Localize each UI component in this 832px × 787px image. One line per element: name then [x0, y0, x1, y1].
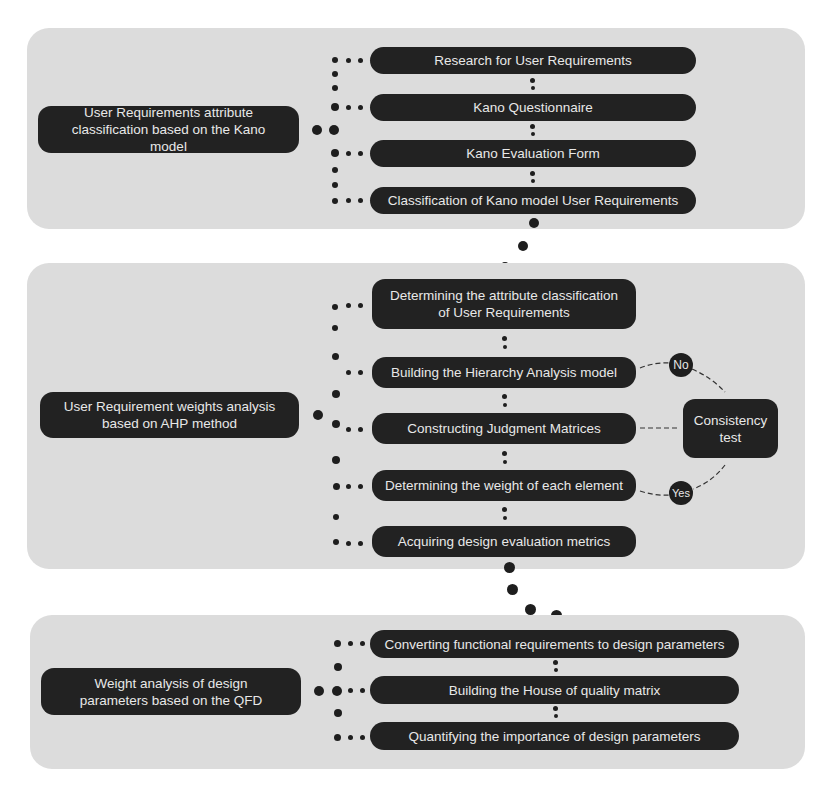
yes-badge: Yes	[669, 481, 693, 505]
stage-title-qfd: Weight analysis of design parameters bas…	[41, 668, 301, 715]
step-converting-requirements-to-parameters: Converting functional requirements to de…	[370, 630, 739, 658]
step-building-house-of-quality: Building the House of quality matrix	[370, 676, 739, 704]
no-badge: No	[669, 353, 693, 377]
step-quantifying-parameter-importance: Quantifying the importance of design par…	[370, 722, 739, 750]
